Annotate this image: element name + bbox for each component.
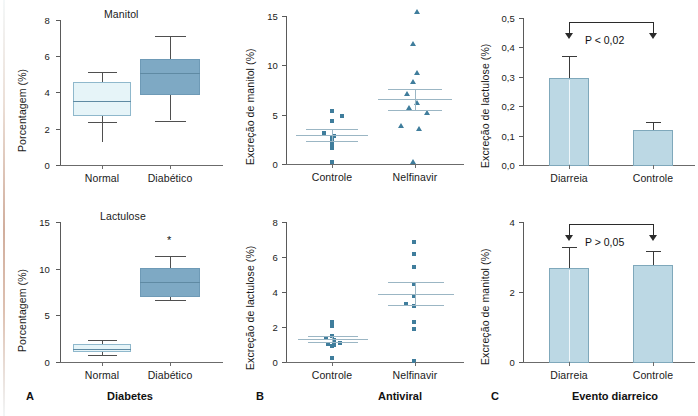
y-tick-label: 0	[28, 357, 50, 368]
y-tick-label: 0	[28, 160, 50, 171]
data-point	[412, 265, 416, 269]
se-stem-controle	[332, 129, 333, 141]
y-tick-label: 15	[252, 11, 278, 22]
x-tick	[332, 362, 333, 366]
error-bar-cap-controle	[646, 251, 661, 252]
plot-area-bar-lactulose: 0,0 0,1 0,2 0,3 0,4 0,5 P < 0,02	[523, 18, 693, 165]
data-point	[330, 344, 334, 348]
chart-title-lactulose: Lactulose	[100, 210, 146, 222]
y-tick-label: 0	[495, 357, 515, 368]
panel-b-lactulose: Excreção de lactulose (%) 0 2 4 6 8	[230, 200, 465, 416]
y-tick	[56, 20, 60, 21]
y-tick	[519, 136, 523, 137]
y-tick-label: 0,0	[491, 160, 515, 171]
error-bar-cap-controle	[646, 122, 661, 123]
plot-area-lactulose: 0 5 10 15 *	[60, 222, 220, 362]
bracket-arrow-left	[565, 33, 573, 39]
mean-line-nelfinavir	[378, 294, 454, 295]
y-axis	[286, 16, 287, 165]
data-point	[398, 123, 404, 128]
y-axis	[523, 222, 524, 363]
y-tick-label: 0,1	[491, 131, 515, 142]
y-tick-label: 0,5	[491, 13, 515, 24]
x-tick	[102, 165, 103, 169]
data-point	[410, 159, 416, 164]
y-tick-label: 2	[256, 322, 278, 333]
whisker-cap-lower	[155, 300, 186, 301]
significance-asterisk: *	[167, 236, 171, 244]
x-tick-label-controle: Controle	[613, 172, 693, 184]
se-stem-nelfinavir	[415, 282, 416, 305]
panel-b-manitol: Excreção de manitol (%) 0 5 10 15	[230, 0, 465, 200]
y-tick	[56, 315, 60, 316]
median-line	[140, 282, 200, 283]
data-point	[404, 91, 410, 96]
y-tick	[282, 362, 286, 363]
data-point	[330, 356, 334, 360]
data-point	[410, 41, 416, 46]
y-tick-label: 2	[28, 124, 50, 135]
whisker-lower	[170, 95, 171, 120]
bar-highlight	[569, 270, 570, 361]
y-tick-label: 10	[252, 60, 278, 71]
whisker-cap-upper	[88, 340, 117, 341]
y-tick	[282, 65, 286, 66]
x-tick	[332, 164, 333, 168]
error-bar-stem-diarreia	[569, 247, 570, 268]
se-cap-upper-controle	[308, 336, 358, 337]
whisker-cap-lower	[155, 121, 186, 122]
data-point	[330, 324, 334, 328]
x-tick	[653, 165, 654, 169]
y-axis-title: Excreção de lactulose (%)	[244, 246, 256, 370]
plot-area-manitol: 0 2 4 6 8	[60, 20, 220, 165]
x-tick	[569, 165, 570, 169]
data-point	[412, 240, 416, 244]
data-point	[410, 79, 416, 84]
x-tick	[170, 165, 171, 169]
plot-area-scatter-lactulose: 0 2 4 6 8	[286, 222, 461, 362]
panel-letter-b: B	[256, 390, 264, 402]
y-tick	[56, 56, 60, 57]
bracket-arrow-left	[565, 235, 573, 241]
whisker-upper	[170, 256, 171, 268]
x-tick-label-diarreia: Diarreia	[529, 369, 609, 381]
bar-controle	[633, 265, 673, 363]
y-tick	[519, 77, 523, 78]
x-axis	[60, 362, 223, 363]
data-point	[412, 327, 416, 331]
y-tick-label: 10	[24, 264, 50, 275]
data-point	[406, 105, 412, 110]
plot-area-scatter-manitol: 0 5 10 15	[286, 16, 461, 164]
y-tick-label: 0	[256, 357, 278, 368]
y-tick-label: 4	[28, 87, 50, 98]
y-tick	[282, 222, 286, 223]
panel-letter-c: C	[491, 390, 499, 402]
box	[140, 59, 200, 95]
error-bar-stem-controle	[653, 122, 654, 129]
scientific-figure: Manitol Porcentagem (%) 0 2 4 6 8	[0, 0, 698, 416]
y-tick-label: 8	[28, 15, 50, 26]
data-point	[414, 70, 420, 75]
y-tick-label: 0,4	[491, 42, 515, 53]
se-cap-lower-nelfinavir	[388, 305, 444, 306]
y-tick-label: 4	[495, 217, 515, 228]
y-axis	[286, 222, 287, 363]
y-tick-label: 0	[256, 159, 278, 170]
y-tick	[282, 164, 286, 165]
whisker-cap-upper	[155, 256, 186, 257]
x-tick-label-diabetico: Diabético	[130, 369, 210, 381]
y-tick-label: 15	[24, 217, 50, 228]
se-cap-lower-nelfinavir	[388, 110, 442, 111]
y-tick	[519, 222, 523, 223]
y-tick	[519, 106, 523, 107]
y-tick-label: 0,3	[491, 72, 515, 83]
data-point	[330, 109, 334, 113]
panel-a-lactulose: Lactulose Porcentagem (%) 0 5 10 15	[0, 200, 230, 416]
y-tick	[282, 115, 286, 116]
data-point	[330, 119, 334, 123]
y-axis	[60, 20, 61, 166]
error-bar-stem-controle	[653, 251, 654, 265]
group-title-antiviral: Antiviral	[340, 390, 460, 402]
y-tick	[519, 362, 523, 363]
y-tick-label: 8	[256, 217, 278, 228]
